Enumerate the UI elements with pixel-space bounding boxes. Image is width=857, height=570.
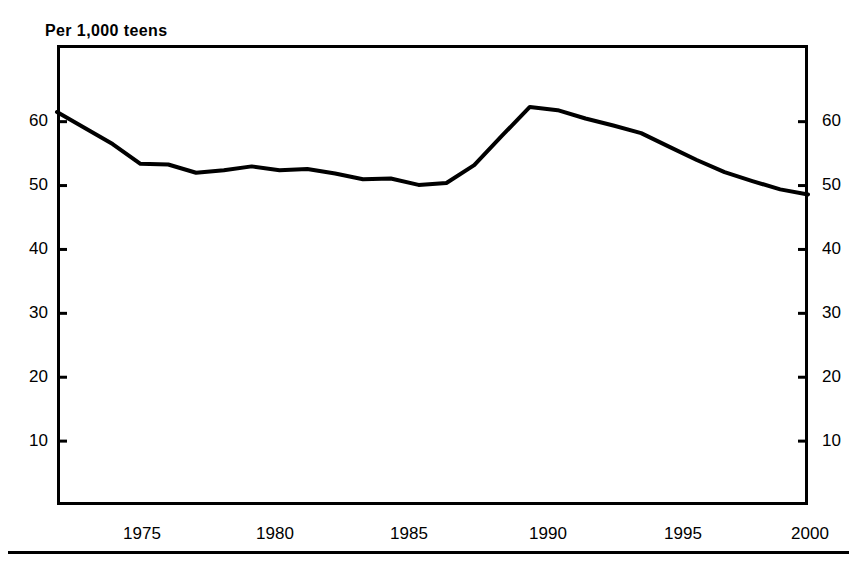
y-left-tick-label-20: 20	[14, 367, 48, 387]
y-left-tick-label-60: 60	[14, 111, 48, 131]
y-right-tick-label-60: 60	[822, 111, 856, 131]
x-tick-label-1985: 1985	[374, 524, 444, 544]
x-tick-label-1980: 1980	[240, 524, 310, 544]
x-tick-label-1975: 1975	[107, 524, 177, 544]
chart-figure: Per 1,000 teens 10 20 30 40 50 60 10 20 …	[0, 0, 857, 570]
y-left-tick-label-10: 10	[14, 431, 48, 451]
plot-area-frame	[57, 45, 808, 505]
y-right-tick-label-20: 20	[822, 367, 856, 387]
chart-title: Per 1,000 teens	[45, 22, 168, 40]
y-left-tick-label-50: 50	[14, 175, 48, 195]
y-right-tick-label-10: 10	[822, 431, 856, 451]
y-right-tick-label-40: 40	[822, 239, 856, 259]
y-left-tick-label-40: 40	[14, 239, 48, 259]
y-right-tick-label-50: 50	[822, 175, 856, 195]
x-tick-label-1990: 1990	[513, 524, 583, 544]
bottom-divider-rule	[8, 551, 849, 554]
y-right-tick-label-30: 30	[822, 303, 856, 323]
y-left-tick-label-30: 30	[14, 303, 48, 323]
x-tick-label-1995: 1995	[648, 524, 718, 544]
x-tick-label-2000: 2000	[775, 524, 845, 544]
